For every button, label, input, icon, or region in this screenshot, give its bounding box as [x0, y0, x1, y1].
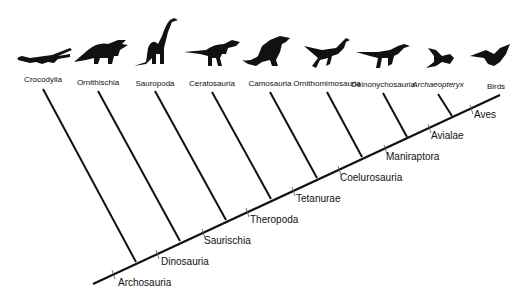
taxon-camosauria: Camosauria	[248, 79, 291, 88]
taxon-ceratosauria: Ceratosauria	[189, 79, 235, 88]
sauropod-silhouette-icon	[134, 18, 178, 66]
triceratops-silhouette-icon	[74, 40, 128, 64]
node-theropoda: Theropoda	[250, 214, 298, 225]
taxon-birds: Birds	[487, 82, 505, 91]
main-stem	[93, 95, 500, 284]
node-archosauria: Archosauria	[118, 277, 171, 288]
theropod-silhouette-icon	[184, 40, 240, 66]
taxon-crocodylia: Crocodylia	[24, 75, 62, 84]
taxon-ornithischia: Ornithischia	[77, 78, 119, 87]
node-dinosauria: Dinosauria	[161, 256, 209, 267]
archaeopteryx-silhouette-icon	[426, 48, 454, 68]
node-aves: Aves	[474, 109, 496, 120]
crocodile-silhouette-icon	[18, 48, 73, 64]
node-maniraptora: Maniraptora	[386, 151, 439, 162]
taxon-sauropoda: Sauropoda	[135, 79, 174, 88]
node-coelurosauria: Coelurosauria	[340, 172, 402, 183]
cladogram-lines	[0, 0, 524, 300]
taxon-deinonychosauria: Deinonychosauria	[351, 80, 415, 89]
node-avialae: Avialae	[431, 130, 464, 141]
raptor-silhouette-icon	[356, 44, 410, 68]
node-tetanurae: Tetanurae	[296, 193, 340, 204]
bird-silhouette-icon	[470, 44, 510, 66]
taxon-archaeopteryx: Archaeopteryx	[412, 80, 464, 89]
node-saurischia: Saurischia	[204, 235, 251, 246]
ornithomimid-silhouette-icon	[304, 38, 350, 68]
allosaur-silhouette-icon	[242, 36, 290, 66]
